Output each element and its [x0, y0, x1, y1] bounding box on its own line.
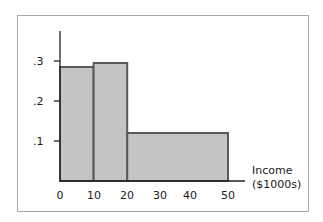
histogram-bar [94, 63, 128, 181]
bars-group [60, 63, 228, 181]
x-axis-label-line2: ($1000s) [252, 178, 301, 191]
x-tick-label: 20 [120, 189, 134, 202]
histogram-bar [127, 133, 228, 181]
histogram-bar [60, 67, 94, 181]
y-tick-label: .1 [33, 135, 44, 148]
x-tick-label: 30 [153, 189, 167, 202]
y-ticks: .1.2.3 [33, 55, 60, 148]
y-tick-label: .3 [33, 55, 44, 68]
x-ticks: 01020304050 [57, 189, 236, 202]
x-tick-label: 40 [183, 189, 197, 202]
x-tick-label: 0 [57, 189, 64, 202]
x-tick-label: 50 [221, 189, 235, 202]
x-tick-label: 10 [87, 189, 101, 202]
y-tick-label: .2 [33, 95, 44, 108]
x-axis-label-line1: Income [252, 164, 293, 177]
histogram-chart: .1.2.3 01020304050 Income ($1000s) [0, 0, 323, 222]
